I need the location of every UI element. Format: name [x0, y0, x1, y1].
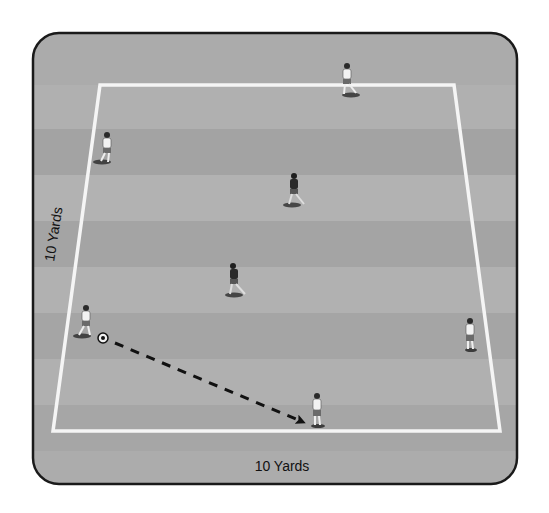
soccer-ball-icon	[98, 333, 108, 343]
grass-stripes	[33, 33, 517, 491]
drill-diagram: 10 Yards 10 Yards	[0, 0, 549, 513]
bottom-dimension-label: 10 Yards	[255, 458, 310, 474]
pitch-panel	[33, 33, 517, 491]
